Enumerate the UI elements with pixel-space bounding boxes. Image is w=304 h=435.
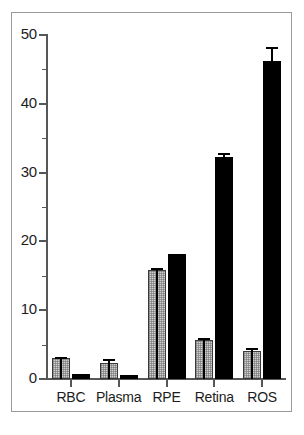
- bar-rpe-black-solid: [168, 254, 186, 379]
- y-tick-major: [39, 240, 47, 242]
- error-bar-ros-gray-hatched: [246, 348, 258, 379]
- error-bar-retina-gray-hatched: [198, 338, 210, 379]
- error-bar-cap: [198, 338, 210, 340]
- error-bar-cap: [218, 153, 230, 155]
- y-tick-major: [39, 309, 47, 311]
- y-tick-label: 10: [0, 300, 37, 317]
- bar-rbc-black-solid: [72, 374, 90, 380]
- x-tick-label: ROS: [217, 389, 304, 405]
- error-bar-cap: [246, 348, 258, 350]
- error-bar-stem: [156, 268, 158, 379]
- x-tick: [166, 380, 168, 387]
- figure: 01020304050 RBCPlasmaRPERetinaROS: [0, 0, 304, 435]
- y-tick-label: 20: [0, 231, 37, 248]
- y-tick-label: 0: [0, 369, 37, 386]
- bar-plasma-black-solid: [120, 375, 138, 379]
- error-bar-stem: [271, 47, 273, 379]
- error-bar-cap: [266, 47, 278, 49]
- plot-area: [47, 35, 286, 379]
- error-bar-stem: [60, 357, 62, 379]
- y-tick-label: 50: [0, 25, 37, 42]
- x-tick: [70, 380, 72, 387]
- error-bar-plasma-gray-hatched: [103, 359, 115, 379]
- error-bar-stem: [251, 348, 253, 379]
- y-tick-major: [39, 34, 47, 36]
- error-bar-cap: [103, 359, 115, 361]
- error-bar-stem: [223, 153, 225, 379]
- error-bar-retina-black-solid: [218, 153, 230, 379]
- error-bar-cap: [151, 268, 163, 270]
- error-bar-stem: [203, 338, 205, 379]
- x-tick: [118, 380, 120, 387]
- error-bar-rbc-gray-hatched: [55, 357, 67, 379]
- y-tick-label: 30: [0, 163, 37, 180]
- y-tick-major: [39, 378, 47, 380]
- error-bar-ros-black-solid: [266, 47, 278, 379]
- y-tick-major: [39, 172, 47, 174]
- y-tick-major: [39, 103, 47, 105]
- x-tick: [213, 380, 215, 387]
- y-tick-label: 40: [0, 94, 37, 111]
- error-bar-stem: [108, 359, 110, 379]
- x-tick: [261, 380, 263, 387]
- error-bar-cap: [55, 357, 67, 359]
- error-bar-rpe-gray-hatched: [151, 268, 163, 379]
